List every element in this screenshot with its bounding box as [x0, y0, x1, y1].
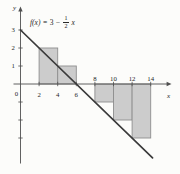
x-tick-label: 2: [37, 91, 41, 98]
formula-denominator: 2: [64, 23, 67, 30]
x-tick-label: 4: [56, 91, 60, 98]
x-tick-label: 6: [75, 91, 79, 98]
y-axis-title: y: [12, 4, 17, 12]
riemann-rectangle: [114, 84, 133, 120]
x-tick-label: 14: [147, 75, 154, 82]
x-tick-label: 12: [129, 75, 136, 82]
riemann-rectangle: [132, 84, 151, 138]
formula-fx: f(x): [30, 18, 40, 27]
x-tick-label: 8: [93, 75, 97, 82]
riemann-rectangle: [95, 84, 114, 102]
formula-numerator: 1: [63, 15, 69, 23]
function-formula: f(x) = 3 − 1 2 x: [30, 13, 75, 31]
formula-fraction: 1 2: [63, 15, 69, 30]
y-tick-label: 2: [12, 44, 16, 51]
x-axis-arrowhead: [167, 82, 172, 86]
x-axis-title: x: [166, 92, 171, 100]
riemann-sum-figure: 24681012140123xy f(x) = 3 − 1 2 x: [0, 0, 180, 174]
y-tick-label: 3: [12, 26, 16, 33]
riemann-rectangle: [39, 48, 58, 84]
origin-label: 0: [15, 90, 19, 97]
formula-equals-part: = 3 −: [43, 18, 60, 27]
y-axis-arrowhead: [18, 7, 22, 12]
formula-variable: x: [71, 18, 74, 27]
figure-canvas: 24681012140123xy: [0, 0, 180, 174]
x-tick-label: 10: [110, 75, 117, 82]
y-tick-label: 1: [12, 62, 15, 69]
